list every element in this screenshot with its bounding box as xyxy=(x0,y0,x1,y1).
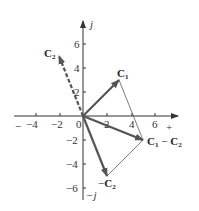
y-tick-6: 6 xyxy=(74,38,80,50)
y-axis-label-negative: −j xyxy=(86,189,96,201)
x-minus-sign: − xyxy=(15,120,21,132)
label-neg-c2: −C2 xyxy=(98,177,116,191)
label-c2: C2 xyxy=(44,47,56,61)
x-tick-2: 2 xyxy=(104,118,110,130)
y-tick-neg2: −2 xyxy=(66,134,78,146)
y-axis xyxy=(83,21,86,200)
y-axis-label-positive: j xyxy=(88,18,93,30)
diagram-canvas: − −4 −2 0 2 4 6 + 6 4 2 −2 −4 −6 j −j C2… xyxy=(0,0,199,211)
x-tick-neg2: −2 xyxy=(51,118,63,130)
y-tick-neg4: −4 xyxy=(66,158,78,170)
x-tick-neg4: −4 xyxy=(26,118,38,130)
label-c1: C1 xyxy=(117,67,129,81)
phasor-diagram: − −4 −2 0 2 4 6 + 6 4 2 −2 −4 −6 j −j C2… xyxy=(0,0,199,211)
x-tick-4: 4 xyxy=(129,118,135,130)
y-tick-4: 4 xyxy=(74,62,80,74)
origin-label: 0 xyxy=(76,118,82,130)
x-axis xyxy=(14,113,178,116)
x-plus-sign: + xyxy=(166,121,172,133)
x-tick-6: 6 xyxy=(152,118,158,130)
label-c1-minus-c2: C1 − C2 xyxy=(147,135,182,149)
y-tick-neg6: −6 xyxy=(66,182,78,194)
y-tick-2: 2 xyxy=(74,86,80,98)
vector-c1 xyxy=(83,80,119,116)
